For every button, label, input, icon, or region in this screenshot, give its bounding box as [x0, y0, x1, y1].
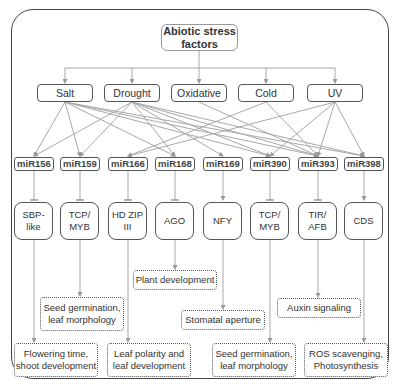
mirna-node-mir156: miR156	[14, 157, 54, 171]
mirna-node-mir166: miR166	[108, 157, 148, 171]
target-node-cds: CDS	[344, 202, 383, 240]
stress-node-uv: UV	[307, 84, 363, 102]
target-node-ago: AGO	[155, 202, 194, 240]
function-node-f_seed1: Seed germination, leaf morphology	[40, 297, 124, 331]
stress-node-oxidative: Oxidative	[171, 84, 227, 102]
mirna-node-mir393: miR393	[298, 157, 338, 171]
target-node-tir: TIR/ AFB	[298, 202, 337, 240]
target-node-tcp1: TCP/ MYB	[60, 202, 99, 240]
mirna-node-mir398: miR398	[344, 157, 384, 171]
stress-node-cold: Cold	[238, 84, 294, 102]
function-node-f_seed2: Seed germination, leaf morphology	[212, 343, 296, 377]
function-node-f_leafpol: Leaf polarity and leaf development	[107, 343, 191, 377]
function-node-f_flower: Flowering time, shoot development	[14, 343, 98, 377]
mirna-node-mir390: miR390	[250, 157, 290, 171]
function-node-f_stomatal: Stomatal aperture	[181, 310, 265, 330]
mirna-node-mir168: miR168	[155, 157, 195, 171]
target-node-nfy: NFY	[203, 202, 242, 240]
function-node-f_plant: Plant development	[133, 270, 217, 290]
target-node-tcp2: TCP/ MYB	[250, 202, 289, 240]
stress-node-salt: Salt	[37, 84, 93, 102]
root-node-abiotic-stress: Abiotic stress factors	[161, 24, 238, 51]
function-node-f_auxin: Auxin signaling	[277, 298, 361, 318]
mirna-node-mir169: miR169	[203, 157, 243, 171]
stress-node-drought: Drought	[104, 84, 160, 102]
target-node-hdzip: HD ZIP III	[108, 202, 147, 240]
target-node-sbp: SBP- like	[14, 202, 53, 240]
mirna-node-mir159: miR159	[60, 157, 100, 171]
function-node-f_ros: ROS scavenging, Photosynthesis	[304, 343, 388, 377]
